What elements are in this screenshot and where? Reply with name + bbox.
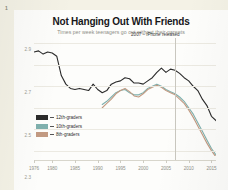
x-axis-tick-label: 1995 bbox=[116, 166, 126, 171]
legend-dash bbox=[50, 126, 54, 127]
chart-legend: 12th-graders10th-graders8th-graders bbox=[36, 114, 82, 140]
gridline: 2.3 bbox=[34, 108, 216, 109]
legend-swatch bbox=[36, 115, 48, 120]
x-axis-tick bbox=[166, 160, 167, 163]
legend-dash bbox=[50, 134, 54, 135]
gridline: 2.7 bbox=[34, 65, 216, 66]
annotation-label-iphone: 2007 – iPhone released bbox=[131, 32, 180, 37]
x-axis-tick bbox=[98, 160, 99, 163]
x-axis-tick-label: 1976 bbox=[29, 166, 39, 171]
y-axis-tick-label: 2.9 bbox=[25, 46, 31, 51]
x-axis-tick-label: 2000 bbox=[138, 166, 148, 171]
x-axis-tick bbox=[189, 160, 190, 163]
x-axis-tick bbox=[75, 160, 76, 163]
x-axis-tick bbox=[143, 160, 144, 163]
y-axis-tick-label: 2.7 bbox=[25, 89, 31, 94]
chart-card: Not Hanging Out With Friends Times per w… bbox=[14, 10, 228, 190]
legend-label: 8th-graders bbox=[56, 132, 80, 137]
x-axis-tick-label: 2005 bbox=[161, 166, 171, 171]
page-number: 1 bbox=[5, 5, 8, 11]
legend-label: 10th-graders bbox=[56, 124, 82, 129]
series-line-8th-graders bbox=[102, 85, 216, 156]
gridline: 1.9 bbox=[34, 151, 216, 152]
chart-subtitle: Times per week teenagers go out without … bbox=[14, 29, 228, 35]
chart-title: Not Hanging Out With Friends bbox=[14, 16, 228, 27]
gridline: 2.9 bbox=[34, 43, 216, 44]
annotation-vertical-line bbox=[175, 38, 176, 160]
legend-dash bbox=[50, 117, 54, 118]
legend-swatch bbox=[36, 124, 48, 129]
legend-item-10th-graders[interactable]: 10th-graders bbox=[36, 123, 82, 130]
x-axis-tick bbox=[120, 160, 121, 163]
legend-item-12th-graders[interactable]: 12th-graders bbox=[36, 114, 82, 121]
legend-swatch bbox=[36, 132, 48, 137]
x-axis-tick-label: 2015 bbox=[207, 166, 217, 171]
chart-page: 1 Not Hanging Out With Friends Times per… bbox=[0, 0, 228, 190]
x-axis-tick bbox=[211, 160, 212, 163]
x-axis-tick bbox=[34, 160, 35, 163]
y-axis-tick-label: 2.5 bbox=[25, 132, 31, 137]
x-axis-tick-label: 1985 bbox=[70, 166, 80, 171]
x-axis-tick-label: 1990 bbox=[93, 166, 103, 171]
x-axis-tick bbox=[52, 160, 53, 163]
series-line-10th-graders bbox=[102, 84, 216, 155]
x-axis-tick-label: 2010 bbox=[184, 166, 194, 171]
x-axis-tick-label: 1980 bbox=[47, 166, 57, 171]
legend-label: 12th-graders bbox=[56, 115, 82, 120]
legend-item-8th-graders[interactable]: 8th-graders bbox=[36, 131, 82, 138]
y-axis-tick-label: 2.3 bbox=[25, 175, 31, 180]
gridline: 2.5 bbox=[34, 86, 216, 87]
